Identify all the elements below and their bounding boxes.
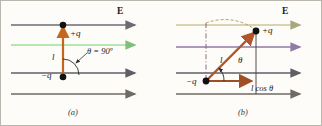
figure-electric-dipole-in-field: E +q −q l θ = 90º (a) [0,0,322,126]
panel-b-graphics [162,1,322,126]
charge-dot-negative [60,74,67,81]
panel-a-graphics [1,1,162,126]
charge-dot-positive [60,22,67,29]
theta-leader [76,53,87,63]
charge-dot-negative [203,78,210,85]
panel-a: E +q −q l θ = 90º (a) [1,1,162,126]
panel-b: E +q −q l θ l cos θ (b) [162,1,322,126]
charge-dot-positive [253,28,260,35]
rotation-arc-dashed [206,20,253,28]
angle-arc [219,68,224,81]
dipole-arrow [206,34,253,81]
